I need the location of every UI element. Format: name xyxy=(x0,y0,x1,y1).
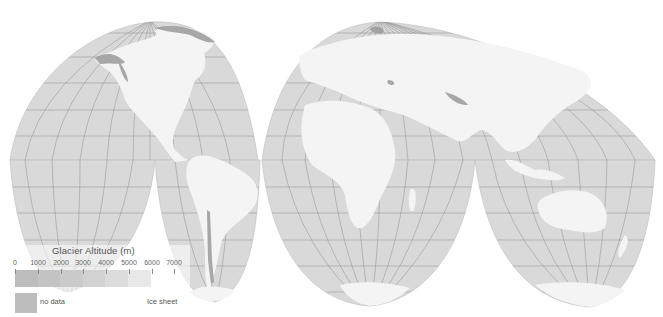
legend-tick-labels: 0 1000 2000 3000 4000 5000 6000 7000 xyxy=(12,259,202,269)
tick-label: 1000 xyxy=(30,259,46,266)
tick-mark xyxy=(15,269,16,274)
tick-mark xyxy=(174,269,175,274)
no-data-label: no data xyxy=(40,297,65,306)
tick-label: 6000 xyxy=(144,259,160,266)
tick-label: 0 xyxy=(13,259,17,266)
tick-label: 2000 xyxy=(53,259,69,266)
bar-segment xyxy=(83,270,106,287)
tick-mark xyxy=(106,269,107,274)
bar-segment xyxy=(15,270,38,287)
bar-segment xyxy=(60,270,83,287)
tick-mark xyxy=(38,269,39,274)
tick-label: 4000 xyxy=(98,259,114,266)
bar-segment xyxy=(38,270,61,287)
legend: Glacier Altitude (m) 0 1000 2000 3000 40… xyxy=(0,245,190,317)
tick-label: 5000 xyxy=(121,259,137,266)
land-antarctica-1 xyxy=(190,286,235,302)
tick-mark xyxy=(61,269,62,274)
legend-title: Glacier Altitude (m) xyxy=(52,245,135,256)
tick-label: 7000 xyxy=(166,259,182,266)
ice-sheet-label: Ice sheet xyxy=(147,297,177,306)
bar-segment xyxy=(128,270,151,287)
tick-mark xyxy=(152,269,153,274)
bar-segment xyxy=(105,270,128,287)
no-data-swatch xyxy=(15,293,37,313)
tick-label: 3000 xyxy=(75,259,91,266)
tick-mark xyxy=(83,269,84,274)
tick-mark xyxy=(129,269,130,274)
